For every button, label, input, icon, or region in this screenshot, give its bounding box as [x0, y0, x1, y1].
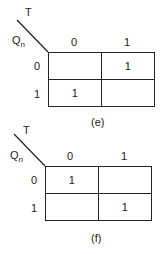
- col-header-1: 1: [121, 150, 127, 162]
- row-header-0: 0: [34, 60, 40, 72]
- cell-0-1: 1: [102, 53, 155, 80]
- caption: (f): [91, 232, 101, 244]
- cell-1-1: 1: [99, 194, 152, 221]
- row-variable-label: Qn: [10, 149, 23, 166]
- cell-0-0: [49, 53, 102, 80]
- kmap-f: T Qn 0 1 0 1 1 1 (f): [0, 127, 162, 254]
- col-variable-label: T: [23, 124, 30, 136]
- row-header-0: 0: [31, 174, 37, 186]
- col-variable-label: T: [25, 6, 32, 18]
- cell-0-1: [99, 167, 152, 194]
- cell-1-1: [102, 80, 155, 107]
- row-header-1: 1: [31, 202, 37, 214]
- col-header-0: 0: [71, 36, 77, 48]
- row-header-1: 1: [34, 88, 40, 100]
- row-variable-label: Qn: [12, 34, 25, 51]
- kmap-grid: 1 1: [45, 166, 152, 221]
- cell-0-0: 1: [46, 167, 99, 194]
- cell-1-0: 1: [49, 80, 102, 107]
- kmap-e: T Qn 0 1 0 1 1 1 (e): [0, 0, 162, 127]
- col-header-1: 1: [124, 36, 130, 48]
- cell-1-0: [46, 194, 99, 221]
- kmap-grid: 1 1: [48, 52, 155, 107]
- col-header-0: 0: [67, 150, 73, 162]
